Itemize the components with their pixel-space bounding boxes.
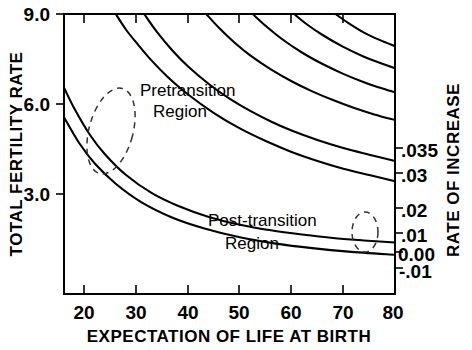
x-tick-label-50: 50 <box>228 302 249 323</box>
curve-02 <box>206 14 395 120</box>
x-tick-label-70: 70 <box>332 302 353 323</box>
post-transition-ellipse <box>352 212 378 252</box>
fertility-rate-chart: 9.0 6.0 3.0 20 30 40 50 60 70 80 .035 .0… <box>0 0 472 350</box>
curve-label-03: .03 <box>401 165 427 186</box>
y2-axis-title: RATE OF INCREASE <box>444 83 463 257</box>
curve-label-01: .01 <box>401 225 428 246</box>
x-tick-label-80: 80 <box>382 302 403 323</box>
pretransition-label-line2: Region <box>153 102 207 121</box>
x-axis-title: EXPECTATION OF LIFE AT BIRTH <box>87 327 371 346</box>
curve-label-035: .035 <box>401 140 438 161</box>
x-axis-ticks <box>84 285 343 294</box>
x-tick-label-30: 30 <box>125 302 146 323</box>
y-tick-label-6: 6.0 <box>24 94 50 115</box>
post-transition-label-line2: Region <box>225 234 279 253</box>
x-tick-label-20: 20 <box>73 302 94 323</box>
curve-neg01 <box>336 14 395 46</box>
x-tick-label-40: 40 <box>177 302 198 323</box>
y-axis-ticks <box>56 14 64 194</box>
y-axis-title: TOTAL FERTILITY RATE <box>7 52 26 257</box>
pretransition-ellipse <box>78 83 143 179</box>
curve-label-02: .02 <box>401 200 427 221</box>
y-tick-label-9: 9.0 <box>24 4 50 25</box>
pretransition-label-line1: Pretransition <box>140 81 235 100</box>
x-tick-label-60: 60 <box>280 302 301 323</box>
post-transition-label-line1: Post-transition <box>208 211 317 230</box>
curve-label-neg01: -.01 <box>399 261 432 282</box>
curve-01 <box>253 14 395 92</box>
chart-page: 9.0 6.0 3.0 20 30 40 50 60 70 80 .035 .0… <box>0 0 472 350</box>
y-tick-label-3: 3.0 <box>24 184 50 205</box>
